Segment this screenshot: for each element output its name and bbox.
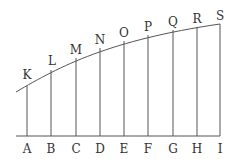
label-P: P	[144, 20, 152, 34]
label-L: L	[48, 54, 56, 68]
bottom-labels: A B C D E F G H I	[22, 142, 223, 156]
label-G: G	[168, 142, 178, 156]
label-M: M	[70, 43, 82, 57]
top-labels: K L M N O P Q R S	[23, 9, 225, 82]
label-H: H	[192, 142, 202, 156]
label-C: C	[71, 142, 80, 156]
ordinates	[27, 24, 220, 136]
label-K: K	[23, 68, 33, 82]
label-S: S	[216, 9, 224, 23]
label-R: R	[192, 12, 202, 26]
ordinate-diagram: A B C D E F G H I K L M N O P Q R S	[0, 0, 235, 159]
curve	[16, 24, 220, 92]
label-A: A	[22, 142, 32, 156]
label-O: O	[119, 26, 129, 40]
label-F: F	[144, 142, 152, 156]
label-E: E	[120, 142, 129, 156]
label-Q: Q	[168, 15, 178, 29]
label-N: N	[95, 33, 106, 47]
label-D: D	[95, 142, 105, 156]
label-I: I	[218, 142, 223, 156]
label-B: B	[47, 142, 56, 156]
